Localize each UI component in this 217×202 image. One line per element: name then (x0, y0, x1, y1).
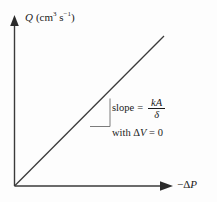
slope-equation: slope = kA δ (112, 97, 165, 120)
condition-text: with ΔV = 0 (112, 127, 165, 139)
x-axis-arrowhead (160, 181, 173, 190)
figure-container: Q(cm3 s−1) −ΔP slope = kA δ with ΔV = 0 (0, 0, 217, 202)
y-axis-label: Q(cm3 s−1) (25, 11, 75, 23)
x-axis-label: −ΔP (177, 179, 197, 190)
y-axis-arrowhead (10, 15, 19, 26)
slope-fraction: kA δ (148, 97, 165, 120)
slope-triangle (90, 99, 110, 127)
y-axis-units-close: ) (71, 11, 75, 23)
y-axis-units-open: (cm (36, 11, 53, 23)
x-axis-variable: P (190, 178, 197, 190)
equals-sign: = (137, 102, 143, 114)
y-axis-units-mid: s (57, 11, 64, 23)
x-axis (15, 181, 174, 190)
condition-suffix: = 0 (146, 127, 162, 138)
fraction-numerator: kA (148, 97, 165, 108)
y-axis (10, 15, 19, 186)
plot-svg (0, 0, 217, 202)
y-axis-units-exponent-2: −1 (64, 10, 71, 18)
y-axis-symbol: Q (25, 11, 33, 23)
slope-annotation: slope = kA δ with ΔV = 0 (112, 97, 165, 139)
condition-prefix: with (112, 127, 133, 138)
slope-label: slope (112, 102, 134, 114)
fraction-denominator: δ (151, 109, 162, 120)
